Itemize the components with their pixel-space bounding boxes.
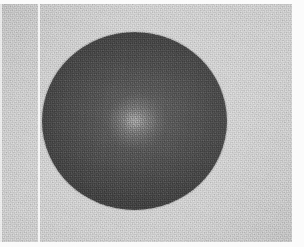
scanned-figure xyxy=(0,0,304,247)
dark-sphere xyxy=(42,32,227,210)
